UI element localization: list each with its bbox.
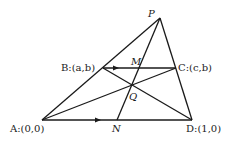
label-P: P xyxy=(147,8,155,19)
label-D: D:(1,0) xyxy=(186,123,221,134)
geometry-diagram: P B:(a,b) M C:(c,b) Q A:(0,0) N D:(1,0) xyxy=(0,0,236,144)
segment-AC xyxy=(42,68,176,120)
label-N: N xyxy=(111,123,122,134)
label-A: A:(0,0) xyxy=(9,123,44,134)
label-M: M xyxy=(130,56,142,67)
arrow-icon-BC xyxy=(113,66,119,71)
segment-PN xyxy=(117,18,160,120)
label-B: B:(a,b) xyxy=(61,62,95,73)
label-C: C:(c,b) xyxy=(178,62,212,73)
arrow-icon-AD xyxy=(95,118,101,123)
segment-AP xyxy=(42,18,160,120)
label-Q: Q xyxy=(129,91,137,102)
